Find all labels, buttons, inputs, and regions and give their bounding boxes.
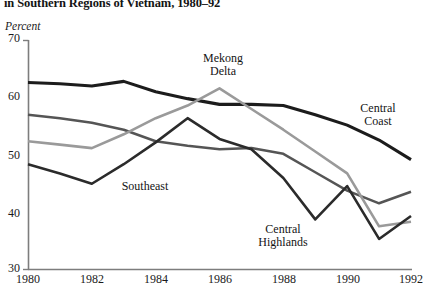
x-tick-label-1990: 1990 <box>325 272 371 287</box>
series-label-central-coast: CentralCoast <box>328 102 427 127</box>
series-label-southeast: Southeast <box>95 180 195 193</box>
series-label-mekong-delta: MekongDelta <box>173 52 273 77</box>
x-tick-label-1982: 1982 <box>69 272 115 287</box>
y-tick-label-50: 50 <box>0 148 20 163</box>
y-tick-label-40: 40 <box>0 206 20 221</box>
series-line-central-highlands <box>28 118 411 239</box>
x-tick-label-1980: 1980 <box>5 272 51 287</box>
x-tick-label-1992: 1992 <box>388 272 427 287</box>
x-tick-label-1984: 1984 <box>133 272 179 287</box>
y-tick-label-70: 70 <box>0 31 20 46</box>
x-tick-label-1988: 1988 <box>261 272 307 287</box>
series-label-central-highlands: CentralHighlands <box>233 223 333 248</box>
y-tick-label-60: 60 <box>0 89 20 104</box>
x-tick-label-1986: 1986 <box>197 272 243 287</box>
